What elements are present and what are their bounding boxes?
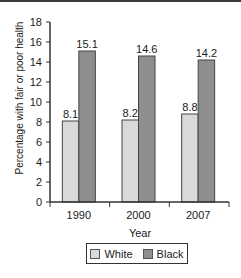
bars: 8.115.18.214.68.814.2 [62, 38, 217, 202]
bar-black-2007 [198, 60, 215, 202]
value-label: 8.1 [63, 108, 78, 120]
y-axis: 024681012141618 [30, 16, 50, 208]
y-tick-label: 4 [36, 156, 42, 168]
y-tick-label: 6 [36, 136, 42, 148]
legend-swatch-black [143, 249, 153, 259]
y-tick-label: 8 [36, 116, 42, 128]
bar-black-2000 [139, 56, 156, 202]
bar-white-2000 [122, 120, 139, 202]
legend-label-white: White [104, 248, 132, 260]
bar-group-2007: 8.814.2 [182, 47, 217, 202]
y-tick-label: 2 [36, 176, 42, 188]
bar-white-2007 [182, 114, 199, 202]
y-tick-label: 12 [30, 76, 42, 88]
legend: White Black [86, 243, 188, 264]
y-tick-label: 14 [30, 56, 42, 68]
legend-label-black: Black [157, 248, 184, 260]
y-tick-label: 10 [30, 96, 42, 108]
bar-white-1990 [62, 121, 78, 202]
bar-black-1990 [79, 51, 96, 202]
x-tick-label: 1990 [67, 209, 91, 221]
x-axis: 199020002007 [50, 202, 229, 221]
bar-group-2000: 8.214.6 [122, 43, 157, 202]
x-tick-label: 2000 [126, 209, 150, 221]
value-label: 14.6 [136, 43, 157, 55]
legend-item-white: White [90, 248, 132, 260]
value-label: 14.2 [196, 47, 217, 59]
value-label: 8.8 [182, 101, 197, 113]
value-label: 8.2 [123, 107, 138, 119]
legend-swatch-white [90, 249, 100, 259]
bar-group-1990: 8.115.1 [62, 38, 97, 202]
bar-chart: 024681012141618 8.115.18.214.68.814.2 19… [0, 0, 241, 240]
y-tick-label: 18 [30, 16, 42, 28]
y-tick-label: 0 [36, 196, 42, 208]
y-tick-label: 16 [30, 36, 42, 48]
y-axis-label: Percentage with fair or poor health [14, 22, 25, 175]
legend-item-black: Black [143, 248, 184, 260]
x-tick-label: 2007 [186, 209, 210, 221]
x-axis-label: Year [129, 227, 152, 239]
value-label: 15.1 [76, 38, 97, 50]
